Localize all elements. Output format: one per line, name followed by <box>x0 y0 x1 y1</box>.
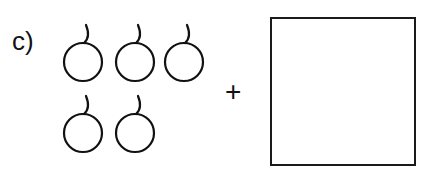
cherry-icon <box>116 25 154 81</box>
cherry-icon <box>64 96 102 152</box>
cherry-icon <box>116 96 154 152</box>
plus-sign: + <box>225 78 241 106</box>
cherry-icon <box>64 25 102 81</box>
answer-box[interactable] <box>270 17 416 166</box>
cherry-icon <box>165 25 203 81</box>
fruit-group <box>0 0 260 177</box>
